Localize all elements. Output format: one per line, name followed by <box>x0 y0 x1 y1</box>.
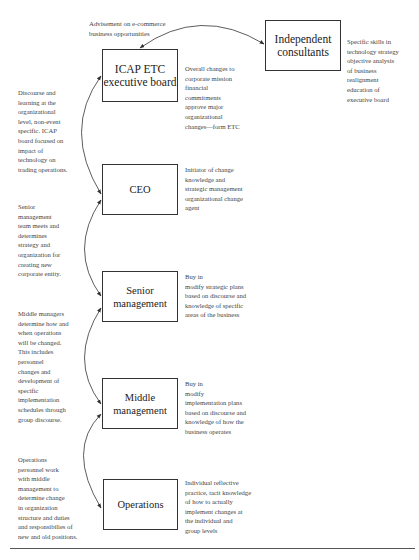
box-independent-consultants: Independent consultants <box>265 20 341 71</box>
box-icap-etc-executive-board: ICAP ETC executive board <box>102 49 178 102</box>
box-senior-management: Senior management <box>102 271 178 322</box>
arrow-ceo-senior <box>85 200 102 296</box>
note-icap: Overall changes to corporate mission fin… <box>185 64 240 131</box>
bottom-rule <box>10 548 415 549</box>
arrow-middle-operations <box>84 414 102 508</box>
note-left-ceo-senior: Senior management team meets and determi… <box>18 202 61 279</box>
box-ceo: CEO <box>102 164 178 215</box>
note-middle: Buy in modify implementation plans based… <box>185 379 246 437</box>
note-ceo: Initiator of change knowledge and strate… <box>185 165 243 213</box>
note-left-middle-operations: Operations personnel work with middle ma… <box>18 455 77 541</box>
arrow-icap-ceo <box>82 76 102 194</box>
annotation-advisement: Advisement on e-commerce business opport… <box>89 19 166 38</box>
note-left-icap-ceo: Discourse and learning at the organizati… <box>18 88 67 174</box>
note-consultants: Specific skills in technology strategy o… <box>347 37 399 104</box>
note-senior: Buy in modify strategic plans based on d… <box>185 272 246 320</box>
box-middle-management: Middle management <box>102 378 178 429</box>
box-operations: Operations <box>103 479 178 530</box>
arrow-senior-middle <box>85 308 102 404</box>
note-left-senior-middle: Middle managers determine how and when o… <box>18 309 69 424</box>
note-operations: Individual reflective practice, tacit kn… <box>185 478 251 536</box>
